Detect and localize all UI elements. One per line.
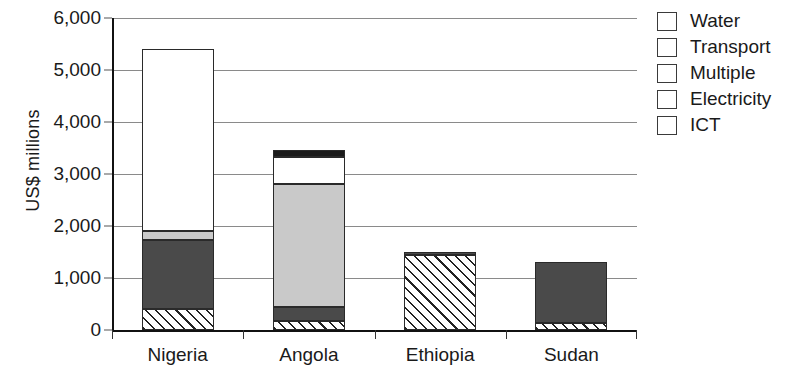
legend-swatch-water-icon [657,12,677,31]
x-tick-mark [506,330,507,339]
y-tick-mark [104,226,112,227]
y-axis-line [112,18,114,330]
x-axis-label-ethiopia: Ethiopia [406,344,475,366]
bar-segment-ict [273,321,345,330]
y-tick-mark [104,18,112,19]
y-tick-label: 5,000 [53,59,101,81]
x-axis-label-angola: Angola [279,344,338,366]
bar-segment-transport [273,157,345,185]
x-tick-mark [112,330,113,339]
x-axis-label-sudan: Sudan [544,344,599,366]
bar-segment-ict [535,323,607,330]
legend-item-ict: ICT [657,112,797,138]
bar-sudan [535,262,607,330]
y-tick-label: 1,000 [53,267,101,289]
y-tick-label: 0 [90,319,101,341]
gridline [112,18,637,19]
legend-swatch-ict-icon [657,116,677,135]
x-axis: NigeriaAngolaEthiopiaSudan [112,330,637,371]
y-tick-mark [104,122,112,123]
legend-label: Electricity [690,88,771,110]
legend-item-multiple: Multiple [657,60,797,86]
y-tick-label: 2,000 [53,215,101,237]
x-axis-label-nigeria: Nigeria [148,344,208,366]
bar-segment-transport [142,49,214,231]
legend-swatch-multiple-icon [657,64,677,83]
y-tick-label: 6,000 [53,7,101,29]
bar-angola [273,150,345,330]
y-tick-mark [104,330,112,331]
chart-legend: WaterTransportMultipleElectricityICT [657,8,797,138]
legend-item-electricity: Electricity [657,86,797,112]
y-tick-label: 4,000 [53,111,101,133]
bar-segment-ict [404,255,476,330]
legend-item-water: Water [657,8,797,34]
plot-area: 01,0002,0003,0004,0005,0006,000 [112,18,637,330]
x-tick-mark [375,330,376,339]
stacked-bar-chart: US$ millions 01,0002,0003,0004,0005,0006… [0,0,797,371]
bar-ethiopia [404,252,476,330]
legend-item-transport: Transport [657,34,797,60]
legend-label: Water [690,10,740,32]
legend-label: Multiple [690,62,755,84]
y-tick-mark [104,174,112,175]
legend-swatch-transport-icon [657,38,677,57]
bar-nigeria [142,49,214,330]
legend-label: ICT [690,114,721,136]
legend-label: Transport [690,36,771,58]
bar-segment-water [273,150,345,157]
bar-segment-multiple [142,231,214,240]
legend-swatch-electricity-icon [657,90,677,109]
bar-segment-electricity [273,307,345,322]
y-tick-label: 3,000 [53,163,101,185]
bar-segment-electricity [404,252,476,255]
x-tick-mark [243,330,244,339]
y-tick-mark [104,278,112,279]
bar-segment-ict [142,309,214,330]
bar-segment-electricity [535,262,607,323]
bar-segment-electricity [142,240,214,309]
bar-segment-multiple [273,184,345,306]
y-tick-mark [104,70,112,71]
x-tick-mark [636,330,637,339]
y-axis-title: US$ millions [23,81,44,241]
